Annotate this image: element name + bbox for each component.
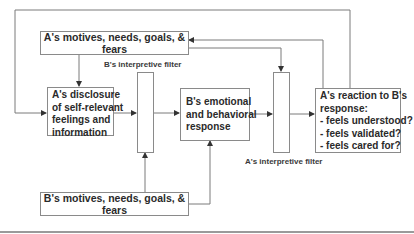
a-motives-to-a-filter-arrow <box>188 48 281 71</box>
a-disclosure-box: A's disclosure of self-relevant feelings… <box>47 87 114 136</box>
b-response-line-1: B's emotional <box>186 96 249 109</box>
b-motives-to-b-response-arrow <box>188 141 210 204</box>
a-reaction-line-1: A's reaction to B's <box>320 90 400 103</box>
b-interpretive-filter <box>137 72 154 153</box>
a-reaction-line-2: response: <box>320 103 400 116</box>
a-reaction-line-5: - feels cared for? <box>320 140 400 153</box>
a-interpretive-filter <box>273 72 290 153</box>
a-disclosure-line-2: of self-relevant <box>52 102 113 115</box>
b-response-box: B's emotional and behavioral response <box>180 88 250 141</box>
a-filter-label: A's interpretive filter <box>245 157 322 166</box>
a-reaction-line-4: - feels validated? <box>320 128 400 141</box>
a-reaction-box: A's reaction to B's response: - feels un… <box>315 88 401 153</box>
b-response-line-3: response <box>186 121 249 134</box>
b-response-line-2: and behavioral <box>186 109 249 122</box>
a-disclosure-line-3: feelings and <box>52 114 113 127</box>
a-disclosure-line-1: A's disclosure <box>52 89 113 102</box>
interaction-diagram: A's motives, needs, goals, & fears B's i… <box>0 0 414 234</box>
bottom-divider <box>0 231 414 233</box>
b-filter-label: B's interpretive filter <box>104 60 181 69</box>
a-motives-text: A's motives, needs, goals, & fears <box>41 31 188 56</box>
a-motives-box: A's motives, needs, goals, & fears <box>40 31 189 55</box>
a-reaction-line-3: - feels understood? <box>320 115 400 128</box>
b-motives-box: B's motives, needs, goals, & fears <box>40 192 189 216</box>
reaction-to-a-motives-arrow <box>189 40 323 88</box>
a-disclosure-line-4: information <box>52 127 113 140</box>
b-motives-text: B's motives, needs, goals, & fears <box>41 192 188 217</box>
